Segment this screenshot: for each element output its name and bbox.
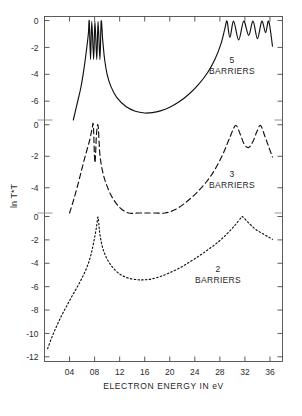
y-tick-label: 0 [34,16,39,26]
curve-dashed [70,123,273,213]
y-tick-label: -2 [31,43,39,53]
figure-panel: 0408121620242832360-2-4-60-2-40-2-4-6-8-… [0,0,302,416]
x-tick-label: 24 [190,367,200,377]
y-tick-label: -6 [31,282,39,292]
y-tick-label: -4 [31,69,39,79]
x-axis-title: ELECTRON ENERGY IN eV [103,381,224,391]
y-tick-label: 0 [34,212,39,222]
x-tick-label: 36 [265,367,275,377]
y-tick-label: -2 [31,235,39,245]
curve-annotation-number: 2 [215,264,220,274]
x-tick-label: 32 [240,367,250,377]
y-tick-label: -12 [26,352,39,362]
x-tick-label: 08 [90,367,100,377]
y-tick-label: -2 [31,151,39,161]
x-tick-label: 28 [215,367,225,377]
y-axis-title: ln T*T [9,184,19,208]
x-tick-label: 20 [165,367,175,377]
curve-annotation-number: 5 [229,55,234,65]
x-tick-label: 12 [115,367,125,377]
curve-annotation-label: BARRIERS [195,275,241,285]
curve-annotation-number: 3 [229,169,234,179]
y-tick-label: -4 [31,183,39,193]
curve-annotation-label: BARRIERS [209,180,255,190]
x-tick-label: 16 [140,367,150,377]
curve-annotation-label: BARRIERS [209,66,255,76]
y-tick-label: 0 [34,120,39,130]
y-tick-label: -8 [31,305,39,315]
transmission-chart: 0408121620242832360-2-4-60-2-40-2-4-6-8-… [0,0,302,416]
y-tick-label: -4 [31,258,39,268]
x-tick-label: 04 [65,367,75,377]
y-tick-label: -6 [31,96,39,106]
y-tick-label: -10 [26,329,39,339]
